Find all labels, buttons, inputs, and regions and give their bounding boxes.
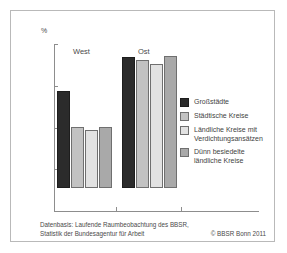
y-axis-unit-label: % (41, 27, 47, 34)
source-note: Datenbasis: Laufende Raumbeobachtung des… (40, 221, 189, 238)
bar (57, 91, 70, 188)
bar (150, 64, 163, 188)
bar (99, 127, 112, 188)
legend-item-label: Ländliche Kreise mit Verdichtungsansätze… (194, 125, 263, 143)
legend-item[interactable]: Dünn besiedelte ländliche Kreise (180, 147, 276, 165)
legend-item[interactable]: Großstädte (180, 97, 276, 107)
bar (85, 130, 98, 188)
bar (136, 60, 149, 188)
legend-item[interactable]: Städtische Kreise (180, 111, 276, 121)
legend-item-label: Dünn besiedelte ländliche Kreise (194, 147, 245, 165)
group-label-west: West (73, 47, 90, 56)
y-tick: 15 (11, 86, 59, 87)
legend-swatch-icon (180, 148, 189, 157)
chart-legend: GroßstädteStädtische KreiseLändliche Kre… (180, 97, 276, 169)
legend-swatch-icon (180, 112, 189, 121)
legend-item-label: Großstädte (194, 97, 229, 106)
group-label-ost: Ost (138, 47, 150, 56)
legend-item[interactable]: Ländliche Kreise mit Verdichtungsansätze… (180, 125, 276, 143)
x-axis-line (54, 211, 259, 212)
chart-figure: % 20151050 West Ost GroßstädteStädtische… (10, 10, 275, 242)
copyright-note: © BBSR Bonn 2011 (211, 230, 266, 237)
legend-item-label: Städtische Kreise (194, 111, 248, 120)
bar (71, 127, 84, 188)
bar (164, 56, 177, 188)
y-tick: 5 (11, 169, 59, 170)
legend-swatch-icon (180, 98, 189, 107)
y-tick: 0 (11, 211, 59, 212)
y-tick: 10 (11, 128, 59, 129)
y-tick-mark (54, 44, 58, 45)
bar (122, 57, 135, 188)
y-tick: 20 (11, 44, 59, 45)
legend-swatch-icon (180, 126, 189, 135)
y-tick-mark (54, 86, 58, 87)
group-separator-tick (181, 207, 182, 212)
group-separator-tick (116, 207, 117, 212)
